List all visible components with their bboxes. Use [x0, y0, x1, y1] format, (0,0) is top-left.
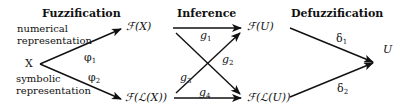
numerical-label-line2: representation — [17, 36, 92, 46]
arrow-delta2 — [290, 63, 373, 97]
label-g2: g2 — [222, 54, 234, 67]
source-x: X — [25, 58, 33, 69]
node-fx: ℱ(X) — [126, 21, 151, 32]
inference-title: Inference — [177, 8, 236, 19]
node-flu: ℱ(ℒ(U)) — [247, 92, 290, 103]
numerical-label-line1: numerical — [17, 24, 68, 34]
symbolic-label-line1: symbolic — [16, 74, 61, 84]
label-phi2: φ2 — [88, 72, 100, 85]
arrow-delta1 — [290, 28, 373, 62]
fuzzy-system-diagram: Fuzzification Inference Defuzzification … — [0, 0, 405, 111]
node-fu: ℱ(U) — [247, 21, 274, 32]
label-delta1: δ1 — [336, 33, 347, 46]
label-delta2: δ2 — [337, 83, 348, 96]
symbolic-label-line2: representation — [16, 86, 91, 96]
output-u: U — [383, 44, 392, 55]
label-g3: g3 — [180, 72, 192, 85]
defuzzification-title: Defuzzification — [291, 8, 383, 19]
label-phi1: φ1 — [84, 52, 96, 65]
label-g4: g4 — [199, 87, 211, 100]
node-flx: ℱ(ℒ(X)) — [125, 92, 167, 103]
label-g1: g1 — [200, 30, 212, 43]
fuzzification-title: Fuzzification — [42, 8, 121, 19]
